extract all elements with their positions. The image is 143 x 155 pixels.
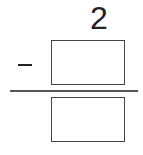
top-number: 2	[90, 2, 108, 34]
subtrahend-input-box[interactable]	[51, 40, 125, 85]
minus-sign-icon	[18, 64, 32, 66]
answer-input-box[interactable]	[51, 97, 125, 142]
sum-line	[10, 90, 138, 92]
